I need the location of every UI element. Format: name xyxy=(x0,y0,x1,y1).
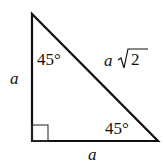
hypotenuse-radicand-label: 2 xyxy=(131,51,140,68)
right-angle-marker xyxy=(32,125,48,141)
triangle-shape xyxy=(0,0,163,165)
triangle-diagram: a 45° a 2 45° a xyxy=(0,0,163,165)
bottom-side-label: a xyxy=(88,146,97,163)
top-angle-label: 45° xyxy=(37,51,61,68)
hypotenuse-variable-label: a xyxy=(104,52,113,69)
bottom-right-angle-label: 45° xyxy=(105,120,129,137)
left-side-label: a xyxy=(10,70,19,87)
